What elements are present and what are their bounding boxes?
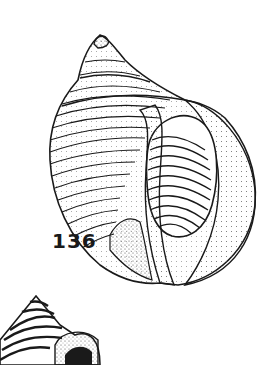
figure-number-label: 136 <box>52 229 97 253</box>
shell-illustration <box>0 0 269 365</box>
partial-shell-bottom <box>0 296 100 365</box>
